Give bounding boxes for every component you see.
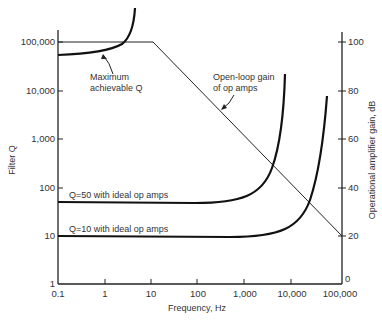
q50-curve [58, 74, 285, 203]
openloop-annotation-line1: Open-loop gain [213, 72, 275, 82]
y2-tick-label: 40 [348, 182, 359, 193]
x-tick-label: 10 [146, 288, 157, 299]
max-q-annotation-line2: achievable Q [90, 83, 143, 93]
q50-label: Q=50 with ideal op amps [69, 190, 169, 200]
x-ticks: 0.1 1 10 100 1,000 10,000 100,000 [51, 279, 357, 299]
openloop-annotation-line2: of op amps [213, 83, 258, 93]
x-tick-label: 10,000 [277, 288, 306, 299]
x-tick-label: 100 [190, 288, 206, 299]
x-tick-label: 1,000 [233, 288, 257, 299]
x-tick-label: 1 [102, 288, 107, 299]
y2-tick-label: 60 [348, 133, 359, 144]
max-q-arrowhead [101, 54, 107, 59]
x-tick-label: 100,000 [323, 288, 357, 299]
y2-tick-label: 0 [345, 273, 350, 284]
x-tick-label: 0.1 [51, 288, 64, 299]
y-tick-label: 100,000 [21, 36, 55, 47]
y2-tick-label: 80 [348, 85, 359, 96]
y2-axis-label: Operational amplifier gain, dB [367, 101, 377, 220]
y2-tick-label: 100 [348, 36, 364, 47]
y-tick-label: 1,000 [31, 133, 55, 144]
openloop-arrowhead [221, 104, 227, 110]
y-tick-label: 100 [39, 182, 55, 193]
y-tick-label: 10,000 [26, 85, 55, 96]
max-q-curve [58, 8, 135, 55]
max-q-annotation-line1: Maximum [90, 72, 129, 82]
x-axis-label: Frequency, Hz [168, 303, 226, 313]
y-tick-label: 10 [44, 230, 55, 241]
q10-label: Q=10 with ideal op amps [69, 224, 169, 234]
left-y-ticks: 1 10 100 1,000 10,000 100,000 [21, 36, 63, 289]
y-axis-label: Filter Q [7, 145, 17, 175]
q10-curve [58, 96, 327, 237]
chart: 1 10 100 1,000 10,000 100,000 0.1 1 10 1… [0, 0, 382, 322]
y2-tick-label: 20 [348, 230, 359, 241]
